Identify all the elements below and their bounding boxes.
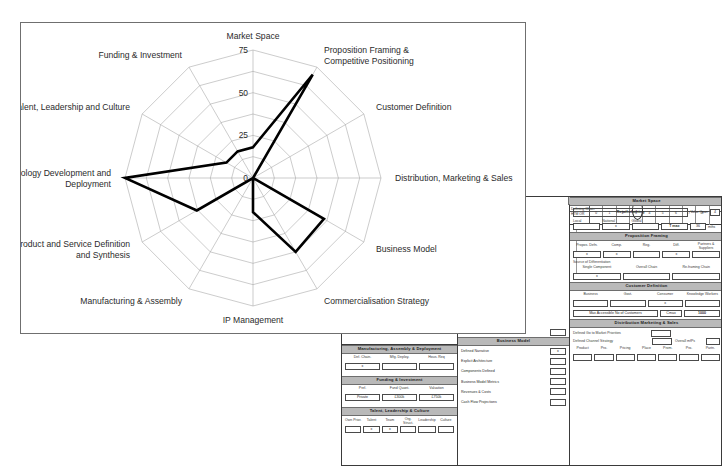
value-quant-box[interactable]: 4 (710, 209, 720, 216)
section-funding: Funding & Investment Pref. Private Fund … (342, 376, 457, 403)
channel-strategy-box[interactable] (652, 338, 672, 345)
p-box-3[interactable] (637, 354, 656, 361)
scope-label-2: Global (632, 219, 642, 223)
section-customer-definition: Customer Definition Business Govt. Consu… (570, 282, 722, 319)
radar-tick-label: 25 (239, 130, 249, 140)
radar-tick-label: 0 (243, 173, 248, 183)
marketing-p-fields: Product Pro. Pricing Place Prom. Pro. Pa… (570, 345, 722, 363)
proposition-label-1: Comp. (603, 243, 631, 250)
radar-tick-labels: 0255075 (239, 45, 249, 183)
funding-value-2[interactable]: £750k (419, 394, 454, 401)
radar-spoke (253, 114, 364, 178)
talent-label-5: Culture (438, 418, 454, 425)
cmax-value[interactable]: 1000 (684, 310, 720, 317)
funding-value-0[interactable]: Private (345, 394, 380, 401)
radar-axis-label: Funding & Investment (98, 50, 182, 60)
value-quant-label: Value Quan (690, 211, 708, 214)
customer-label-1: Govt. (610, 292, 645, 299)
p-label-0: Product (573, 346, 592, 353)
radar-axis-label: IP Management (223, 315, 284, 325)
business-model-row: Business Model Metrics (458, 377, 569, 387)
radar-axis-label: Talent, Leadership and Culture (21, 102, 130, 112)
p-box-2[interactable] (616, 354, 635, 361)
customer-box-3[interactable] (685, 300, 720, 307)
business-model-label: Explicit Architecture (461, 359, 547, 363)
funding-value-1[interactable]: £300k (382, 394, 417, 401)
proposition-box-4[interactable] (692, 251, 720, 258)
business-model-box[interactable] (550, 399, 566, 406)
proposition-box-3[interactable]: x (662, 251, 690, 258)
section-business-model: Business Model Defined Narrative x Expli… (458, 337, 569, 407)
strategic-gap-box[interactable] (550, 329, 566, 336)
funding-label-0: Pref. (345, 386, 380, 393)
manufacturing-label-2: Hous. Req (419, 355, 454, 362)
business-model-label: Business Model Metrics (461, 380, 547, 384)
talent-box-5[interactable] (438, 426, 454, 433)
business-model-box[interactable]: x (550, 348, 566, 355)
radar-axis-label: Product and Service Definitionand Synthe… (21, 239, 130, 260)
p-label-2: Pricing (616, 346, 635, 353)
market-space-value[interactable]: Retail-clothing (573, 208, 688, 217)
overall-mfps-label: Overall mfPs (675, 339, 703, 343)
business-model-box[interactable] (550, 378, 566, 385)
talent-box-1[interactable]: x (363, 426, 379, 433)
manufacturing-box-1[interactable] (382, 363, 417, 370)
overall-mfps-box[interactable] (706, 338, 720, 345)
customer-box-2[interactable]: x (648, 300, 683, 307)
radar-axis-label: Manufacturing & Assembly (80, 296, 182, 306)
proposition-box-2[interactable] (633, 251, 661, 258)
business-model-label: Defined Narrative (461, 349, 547, 353)
scope-label-0: Local (573, 219, 581, 223)
manufacturing-box-0[interactable]: x (345, 363, 380, 370)
radar-spoke (189, 178, 253, 289)
max-customers-label: Max Accessible No of Customers (573, 310, 658, 317)
business-model-row: Defined Narrative x (458, 346, 569, 356)
business-model-box[interactable] (550, 358, 566, 365)
talent-box-2[interactable]: x (382, 426, 398, 433)
section-market-space: Market Space Retail-clothing Value Quan … (570, 197, 722, 232)
talent-box-4[interactable] (418, 426, 435, 433)
diff-box-2[interactable] (672, 273, 720, 280)
distribution-header: Distribution Marketing & Sales (570, 319, 722, 328)
proposition-label-2: Reg. (633, 243, 661, 250)
tmax-value[interactable]: 36 (690, 223, 706, 230)
business-model-row: Cash Flow Projections (458, 397, 569, 407)
scope-box-0[interactable] (573, 223, 600, 230)
proposition-label-4: Partners & Suppliers (692, 242, 720, 250)
diff-box-0[interactable]: x (573, 273, 621, 280)
p-box-6[interactable] (701, 354, 720, 361)
p-box-4[interactable] (658, 354, 677, 361)
proposition-framing-fields: Propos. Defn. x Comp. x Reg. Diff. x Par… (570, 241, 722, 260)
p-label-5: Pro. (679, 346, 698, 353)
manufacturing-label-1: Mfg. Deploy. (382, 355, 417, 362)
talent-label-0: Own Prior. (345, 418, 361, 425)
proposition-box-1[interactable]: x (603, 251, 631, 258)
customer-box-0[interactable] (573, 300, 608, 307)
radar-spoke (189, 67, 253, 178)
diff-label-0: Single Component (573, 265, 621, 272)
p-box-0[interactable] (573, 354, 592, 361)
p-label-1: Pro. (594, 346, 613, 353)
funding-label-2: Valuation (419, 386, 454, 393)
business-model-box[interactable] (550, 388, 566, 395)
proposition-box-0[interactable]: x (573, 251, 601, 258)
scope-box-2[interactable] (632, 223, 659, 230)
business-model-box[interactable] (550, 368, 566, 375)
market-space-header: Market Space (570, 197, 722, 206)
customer-box-1[interactable] (610, 300, 645, 307)
talent-box-3[interactable] (400, 426, 416, 433)
talent-label-1: Talent (363, 418, 379, 425)
proposition-framing-header: Proposition Framing (570, 232, 722, 241)
p-box-5[interactable] (679, 354, 698, 361)
business-model-row: Explicit Architecture (458, 356, 569, 366)
diff-box-1[interactable] (623, 273, 671, 280)
manufacturing-box-2[interactable] (419, 363, 454, 370)
p-box-1[interactable] (594, 354, 613, 361)
customer-definition-fields: Business Govt. Consumer x Knowledge Work… (570, 291, 722, 309)
talent-box-0[interactable] (345, 426, 361, 433)
go-to-market-box[interactable] (651, 330, 671, 337)
business-model-header: Business Model (458, 337, 569, 346)
scope-box-1[interactable]: x (602, 223, 629, 230)
radar-chart: 0255075 Market SpaceProposition Framing … (21, 23, 525, 333)
p-label-6: Partn. (701, 346, 720, 353)
